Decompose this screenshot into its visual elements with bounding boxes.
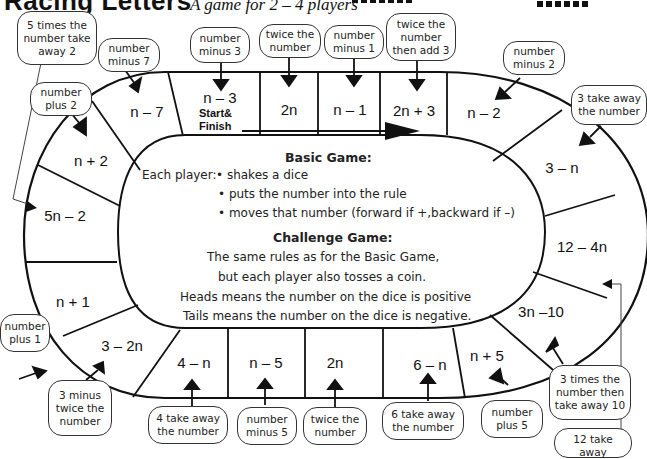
hint-number-minus-5: number minus 5 xyxy=(237,407,297,445)
cell-n-minus-3[interactable]: n – 3 xyxy=(203,89,236,106)
cell-3n-minus-10[interactable]: 3n –10 xyxy=(518,303,564,320)
basic-step-3: • moves that number (forward if +,backwa… xyxy=(218,206,515,220)
cell-n-plus-2[interactable]: n + 2 xyxy=(74,152,108,169)
cell-n-minus-7[interactable]: n – 7 xyxy=(130,103,163,120)
challenge-line-2: but each player also tosses a coin. xyxy=(218,270,426,284)
start-finish-label: Start& Finish xyxy=(199,107,232,133)
hint-5-times-minus-2: 5 times the number take away 2 xyxy=(17,11,97,65)
hint-3-take-away: 3 take away the number xyxy=(571,85,647,125)
basic-game-heading: Basic Game: xyxy=(285,150,372,165)
hint-twice-number-top: twice the number xyxy=(259,24,321,58)
hint-number-plus-1: number plus 1 xyxy=(0,314,50,352)
cell-n-plus-5[interactable]: n + 5 xyxy=(470,347,504,364)
start-finish-arrow xyxy=(242,122,420,140)
hint-number-minus-2: number minus 2 xyxy=(503,41,565,75)
challenge-line-1: The same rules as for the Basic Game, xyxy=(207,250,439,264)
cell-4-minus-n[interactable]: 4 – n xyxy=(177,354,210,371)
hint-3-minus-twice: 3 minus twice the number xyxy=(48,380,112,436)
hint-6-take-away: 6 take away the number xyxy=(382,402,464,440)
cell-n-minus-2[interactable]: n – 2 xyxy=(467,104,500,121)
cell-12-minus-4n[interactable]: 12 – 4n xyxy=(557,238,607,255)
hint-number-plus-5: number plus 5 xyxy=(481,400,543,438)
cell-5n-minus-2[interactable]: 5n – 2 xyxy=(44,207,86,224)
cell-2n-bottom[interactable]: 2n xyxy=(327,354,344,371)
cell-3-minus-2n[interactable]: 3 – 2n xyxy=(101,337,143,354)
hint-3-times-minus-10: 3 times the number then take away 10 xyxy=(549,365,631,420)
cell-n-minus-1[interactable]: n – 1 xyxy=(333,101,366,118)
hint-twice-then-add-3: twice the number then add 3 xyxy=(386,13,456,61)
hint-number-minus-1: number minus 1 xyxy=(324,25,384,59)
start-label-line2: Finish xyxy=(199,120,232,133)
cell-n-plus-1[interactable]: n + 1 xyxy=(56,293,90,310)
hint-number-plus-2: number plus 2 xyxy=(30,82,92,116)
hint-12-take-away: 12 take away xyxy=(554,428,632,458)
cell-2n-plus-3[interactable]: 2n + 3 xyxy=(393,102,435,119)
hint-number-minus-3: number minus 3 xyxy=(190,27,250,63)
basic-step-2: • puts the number into the rule xyxy=(218,187,407,201)
challenge-line-4: Tails means the number on the dice is ne… xyxy=(183,309,471,323)
hint-twice-number-bottom: twice the number xyxy=(303,407,367,445)
challenge-game-heading: Challenge Game: xyxy=(273,230,392,245)
basic-step-1: • shakes a dice xyxy=(216,168,308,182)
cell-3-minus-n[interactable]: 3 – n xyxy=(545,159,578,176)
hint-number-minus-7: number minus 7 xyxy=(98,38,160,72)
start-label-line1: Start& xyxy=(199,107,232,120)
cell-n-minus-5[interactable]: n – 5 xyxy=(249,354,282,371)
hint-4-take-away: 4 take away the number xyxy=(148,406,228,444)
cell-2n-top[interactable]: 2n xyxy=(281,101,298,118)
each-player-label: Each player: xyxy=(142,168,217,182)
challenge-line-3: Heads means the number on the dice is po… xyxy=(180,290,471,304)
cell-6-minus-n[interactable]: 6 – n xyxy=(413,356,446,373)
